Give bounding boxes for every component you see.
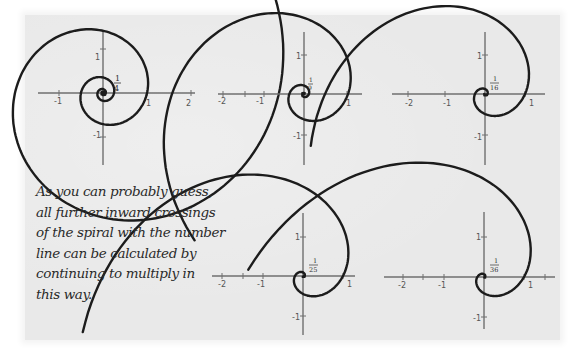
fraction-numerator: 1 xyxy=(493,75,497,83)
caption-line: all further inward crossings xyxy=(36,202,236,223)
caption-line: line can be calculated by xyxy=(36,243,236,264)
tick-label: 1 xyxy=(295,233,300,242)
fraction-numerator: 1 xyxy=(115,74,120,83)
spiral-panel-3: -2 -1 1 1 -1 1 16 xyxy=(311,6,545,165)
tick-label: -1 xyxy=(93,131,101,140)
fraction-numerator: 1 xyxy=(494,257,498,265)
tick-label: 1 xyxy=(529,99,534,108)
fraction-denominator: 9 xyxy=(308,84,312,91)
tick-label: -1 xyxy=(256,97,264,106)
fraction-denominator: 16 xyxy=(490,84,498,92)
spiral-panel-5: -2 -1 1 1 -1 1 36 xyxy=(248,163,555,329)
tick-label: 1 xyxy=(346,99,351,108)
tick-label: 1 xyxy=(528,281,533,290)
tick-label: -2 xyxy=(218,97,226,106)
tick-label: -1 xyxy=(54,97,62,106)
tick-label: -1 xyxy=(473,314,481,323)
tick-label: 1 xyxy=(476,233,481,242)
tick-label: 1 xyxy=(146,99,151,108)
tick-label: -1 xyxy=(293,132,301,141)
fraction-numerator: 1 xyxy=(313,257,317,265)
tick-label: -1 xyxy=(292,313,300,322)
tick-label: 1 xyxy=(95,53,100,62)
tick-label: 1 xyxy=(477,52,482,61)
tick-label: -1 xyxy=(474,133,482,142)
tick-label: -2 xyxy=(405,99,413,108)
fraction-denominator: 36 xyxy=(490,266,498,274)
tick-label: 2 xyxy=(186,99,191,108)
tick-label: 1 xyxy=(296,52,301,61)
fraction-denominator: 4 xyxy=(114,84,119,93)
tick-label: -2 xyxy=(398,281,406,290)
caption-line: continuing to multiply in xyxy=(36,263,236,284)
caption-line: this way. xyxy=(36,284,236,305)
tick-label: -1 xyxy=(443,99,451,108)
explanation-caption: As you can probably guess, all further i… xyxy=(36,181,236,304)
fraction-numerator: 1 xyxy=(309,76,313,83)
fraction-denominator: 25 xyxy=(309,266,317,274)
tick-label: 1 xyxy=(347,280,352,289)
tick-label: -1 xyxy=(438,281,446,290)
caption-line: of the spiral with the number xyxy=(36,222,236,243)
caption-line: As you can probably guess, xyxy=(36,181,236,202)
tick-label: -1 xyxy=(257,280,265,289)
